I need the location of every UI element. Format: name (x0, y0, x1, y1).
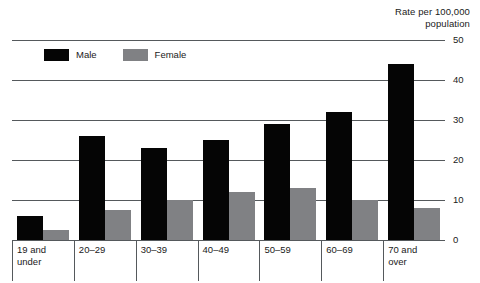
bar-male-group-1 (79, 136, 105, 240)
x-axis-label-4: 50–59 (264, 244, 321, 256)
bar-female-group-2 (167, 200, 193, 240)
x-axis-cell-5: 60–69 (321, 241, 383, 281)
y-tick-label-10: 10 (453, 195, 464, 205)
x-axis-label-2: 30–39 (141, 244, 198, 256)
x-axis-categories: 19 and under20–2930–3940–4950–5960–6970 … (12, 241, 445, 281)
y-axis-title-line-2: population (280, 18, 470, 30)
x-axis-label-5: 60–69 (326, 244, 383, 256)
bar-male-group-2 (141, 148, 167, 240)
x-axis-label-6: 70 and over (388, 244, 445, 267)
bar-female-group-0 (43, 230, 69, 240)
y-axis-title: Rate per 100,000 population (280, 6, 470, 29)
legend-swatch-male-icon (44, 49, 69, 61)
bar-male-group-3 (203, 140, 229, 240)
bar-male-group-5 (326, 112, 352, 240)
y-tick-label-50: 50 (453, 35, 464, 45)
bar-male-group-6 (388, 64, 414, 240)
legend-label-male: Male (76, 50, 97, 60)
x-axis-cell-0: 19 and under (12, 241, 74, 281)
legend: Male Female (44, 49, 186, 61)
x-axis-cell-4: 50–59 (259, 241, 321, 281)
bar-female-group-5 (352, 200, 378, 240)
x-axis-cell-3: 40–49 (198, 241, 260, 281)
x-axis-cell-2: 30–39 (136, 241, 198, 281)
x-axis-label-0: 19 and under (17, 244, 74, 267)
legend-label-female: Female (155, 50, 187, 60)
bar-male-group-4 (264, 124, 290, 240)
x-axis-label-1: 20–29 (79, 244, 136, 256)
legend-swatch-female-icon (123, 49, 148, 61)
legend-item-male: Male (44, 49, 97, 61)
y-tick-label-0: 0 (453, 235, 458, 245)
x-axis-cell-1: 20–29 (74, 241, 136, 281)
x-axis-cell-6: 70 and over (383, 241, 445, 281)
plot-area: 50403020100 (12, 40, 445, 240)
bars-group (12, 40, 445, 240)
bar-female-group-4 (290, 188, 316, 240)
y-tick-label-20: 20 (453, 155, 464, 165)
x-axis-label-3: 40–49 (203, 244, 260, 256)
legend-item-female: Female (123, 49, 187, 61)
bar-male-group-0 (17, 216, 43, 240)
y-axis-title-line-1: Rate per 100,000 (280, 6, 470, 18)
bar-female-group-6 (414, 208, 440, 240)
bar-chart: Rate per 100,000 population 50403020100 … (0, 0, 480, 283)
y-tick-label-40: 40 (453, 75, 464, 85)
bar-female-group-3 (229, 192, 255, 240)
y-tick-label-30: 30 (453, 115, 464, 125)
bar-female-group-1 (105, 210, 131, 240)
